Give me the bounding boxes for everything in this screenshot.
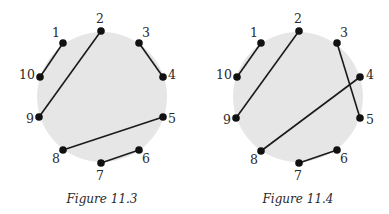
point-label: 5 [168,111,176,126]
figure-caption: Figure 11.4 [262,192,334,206]
point-10 [36,73,44,81]
point-3 [135,39,143,47]
point-9 [232,114,240,122]
point-10 [233,73,241,81]
point-label: 7 [294,168,302,183]
point-label: 10 [216,67,232,82]
point-label: 9 [223,112,231,127]
point-label: 8 [250,152,258,167]
point-label: 4 [366,67,374,82]
point-label: 2 [294,11,302,26]
figure-caption: Figure 11.3 [66,192,138,206]
point-1 [59,39,67,47]
point-label: 4 [168,67,176,82]
point-label: 8 [52,151,60,166]
point-8 [257,147,265,155]
point-4 [159,73,167,81]
point-label: 9 [26,111,34,126]
point-8 [59,146,67,154]
figure-1: 12345678910Figure 11.3 [19,11,176,206]
point-7 [97,159,105,167]
point-2 [295,27,303,35]
point-2 [97,27,105,35]
point-label: 3 [340,25,348,40]
point-label: 3 [142,25,150,40]
point-5 [356,114,364,122]
point-label: 6 [340,151,348,166]
point-label: 5 [366,112,374,127]
point-label: 10 [19,67,35,82]
figure-2: 12345678910Figure 11.4 [216,11,374,206]
point-3 [333,39,341,47]
point-7 [295,159,303,167]
chord-diagram-canvas: 12345678910Figure 11.312345678910Figure … [0,0,389,214]
disk [233,32,363,162]
point-label: 2 [96,11,104,26]
point-label: 7 [96,168,104,183]
point-4 [356,73,364,81]
point-1 [257,39,265,47]
point-5 [159,113,167,121]
point-9 [35,113,43,121]
point-label: 1 [52,25,60,40]
point-label: 1 [250,25,258,40]
point-label: 6 [142,151,150,166]
